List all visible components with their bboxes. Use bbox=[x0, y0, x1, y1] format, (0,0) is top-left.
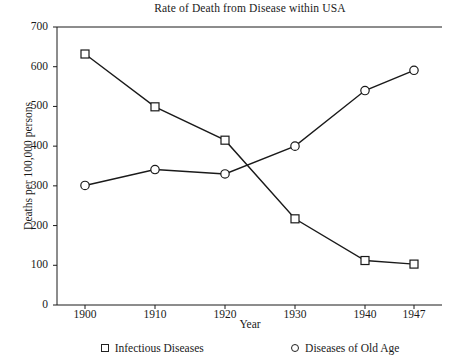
y-tick-label: 300 bbox=[8, 180, 48, 192]
square-marker-icon bbox=[101, 344, 109, 352]
x-tick-label: 1900 bbox=[60, 309, 110, 321]
x-tick-label: 1930 bbox=[270, 309, 320, 321]
data-point-diseases-of-old-age-1947[interactable] bbox=[410, 66, 418, 74]
data-point-diseases-of-old-age-1920[interactable] bbox=[221, 170, 229, 178]
x-tick-label: 1910 bbox=[130, 309, 180, 321]
data-point-diseases-of-old-age-1900[interactable] bbox=[81, 181, 89, 189]
data-point-infectious-diseases-1910[interactable] bbox=[151, 103, 159, 111]
x-tick-label: 1920 bbox=[200, 309, 250, 321]
data-point-diseases-of-old-age-1940[interactable] bbox=[361, 86, 369, 94]
legend-item-infectious-diseases[interactable]: Infectious Diseases bbox=[101, 342, 204, 354]
chart-figure: Rate of Death from Disease within USA De… bbox=[0, 0, 460, 363]
legend-item-diseases-of-old-age[interactable]: Diseases of Old Age bbox=[291, 342, 399, 354]
y-tick-label: 600 bbox=[8, 61, 48, 73]
series-line-infectious-diseases bbox=[85, 54, 414, 264]
data-point-infectious-diseases-1920[interactable] bbox=[221, 136, 229, 144]
chart-legend: Infectious Diseases Diseases of Old Age bbox=[57, 338, 443, 358]
y-tick-label: 500 bbox=[8, 100, 48, 112]
legend-label-infectious-diseases: Infectious Diseases bbox=[115, 342, 204, 354]
x-tick-label: 1940 bbox=[340, 309, 390, 321]
y-tick-label: 100 bbox=[8, 259, 48, 271]
data-point-infectious-diseases-1947[interactable] bbox=[410, 260, 418, 268]
y-tick-label: 200 bbox=[8, 220, 48, 232]
legend-label-diseases-of-old-age: Diseases of Old Age bbox=[305, 342, 399, 354]
data-point-diseases-of-old-age-1930[interactable] bbox=[291, 142, 299, 150]
y-tick-label: 400 bbox=[8, 140, 48, 152]
y-tick-label: 700 bbox=[8, 21, 48, 33]
y-tick-label: 0 bbox=[8, 299, 48, 311]
x-tick-label: 1947 bbox=[389, 309, 439, 321]
circle-marker-icon bbox=[291, 344, 299, 352]
data-point-diseases-of-old-age-1910[interactable] bbox=[151, 165, 159, 173]
data-point-infectious-diseases-1930[interactable] bbox=[291, 215, 299, 223]
data-point-infectious-diseases-1900[interactable] bbox=[81, 50, 89, 58]
data-point-infectious-diseases-1940[interactable] bbox=[361, 257, 369, 265]
